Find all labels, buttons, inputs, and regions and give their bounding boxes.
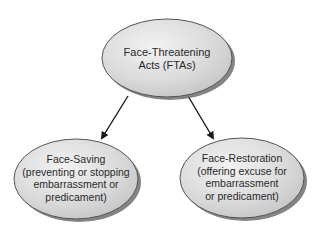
node-face-restoration-line-2: (offering excuse for [197, 165, 287, 178]
node-fta-label: Face-Threatening Acts (FTAs) [107, 38, 227, 80]
node-face-saving-line-3: embarrassment or [33, 178, 118, 191]
node-fta-line-1: Face-Threatening [124, 46, 211, 60]
node-face-saving-label: Face-Saving (preventing or stopping emba… [14, 150, 138, 206]
node-face-restoration-line-1: Face-Restoration [202, 152, 283, 165]
node-face-restoration-line-3: embarrassment [206, 177, 279, 190]
node-face-saving-line-1: Face-Saving [47, 153, 106, 166]
node-face-restoration-label: Face-Restoration (offering excuse for em… [180, 149, 304, 205]
arrow-fta-to-face-saving [102, 96, 128, 138]
node-fta-line-2: Acts (FTAs) [138, 59, 195, 73]
node-face-restoration-line-4: or predicament) [205, 190, 279, 203]
arrow-fta-to-face-restoration [188, 96, 213, 138]
node-face-saving-line-2: (preventing or stopping [22, 166, 129, 179]
node-face-saving-line-4: predicament) [45, 191, 106, 204]
